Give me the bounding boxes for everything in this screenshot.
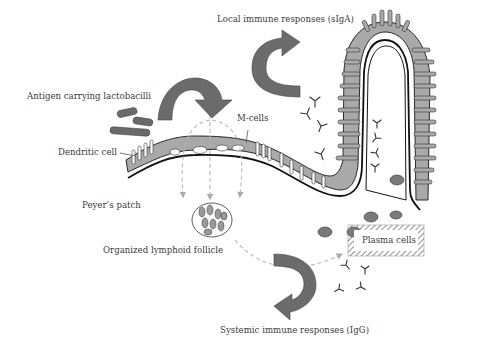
- diagram-canvas: Local immune responses (sIgA) Antigen ca…: [0, 0, 482, 341]
- label-antigen-carrying-lactobacilli: Antigen carrying lactobacilli: [27, 92, 151, 101]
- label-m-cells: M-cells: [237, 114, 269, 123]
- label-organized-lymphoid-follicle: Organized lymphoid follicle: [103, 246, 223, 255]
- label-systemic-immune-responses: Systemic immune responses (IgG): [220, 326, 369, 335]
- label-local-immune-responses: Local immune responses (sIgA): [217, 15, 354, 24]
- systemic-response-arrow: [274, 254, 316, 320]
- antigen-uptake-arrow: [158, 78, 232, 120]
- label-plasma-cells: Plasma cells: [362, 236, 416, 245]
- label-dendritic-cell: Dendritic cell: [58, 148, 117, 157]
- label-peyers-patch: Peyer’s patch: [82, 201, 141, 210]
- lymphoid-follicle: [192, 203, 232, 237]
- lactobacilli-cluster: [110, 107, 154, 136]
- diagram-graphics: [0, 0, 482, 341]
- local-response-arrow: [252, 30, 300, 97]
